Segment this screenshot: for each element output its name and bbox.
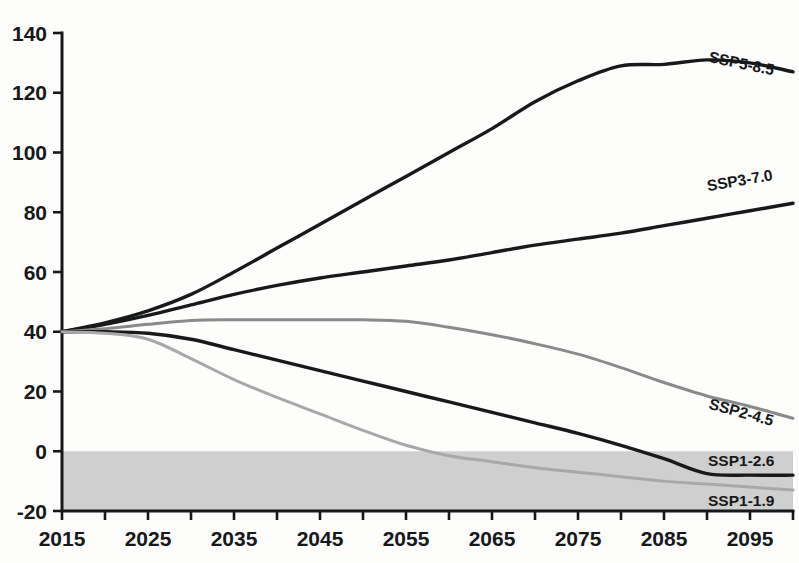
x-axis-label-2025: 2025 [125,527,172,550]
y-axis-label-140: 140 [12,22,47,45]
y-axis-label-0: 0 [35,440,47,463]
series-label-ssp1-1-9: SSP1-1.9 [708,492,775,509]
x-axis-tick-labels: 201520252035204520552065207520852095 [39,527,774,550]
y-axis-label--20: -20 [17,500,47,523]
y-axis-label-20: 20 [24,380,47,403]
y-axis-label-40: 40 [24,320,47,343]
x-axis-label-2095: 2095 [727,527,774,550]
emissions-scenario-chart: 140120100806040200-20 201520252035204520… [0,0,799,563]
y-axis-label-100: 100 [12,141,47,164]
series-label-ssp1-2-6: SSP1-2.6 [708,452,775,469]
x-axis-label-2035: 2035 [211,527,258,550]
x-axis-label-2065: 2065 [469,527,516,550]
x-axis-label-2045: 2045 [297,527,344,550]
chart-canvas: 140120100806040200-20 201520252035204520… [0,0,799,563]
y-axis-label-60: 60 [24,261,47,284]
x-axis-label-2015: 2015 [39,527,86,550]
x-axis-label-2085: 2085 [641,527,688,550]
y-axis-label-120: 120 [12,81,47,104]
y-axis-label-80: 80 [24,201,47,224]
x-axis-label-2075: 2075 [555,527,602,550]
x-axis-label-2055: 2055 [383,527,430,550]
